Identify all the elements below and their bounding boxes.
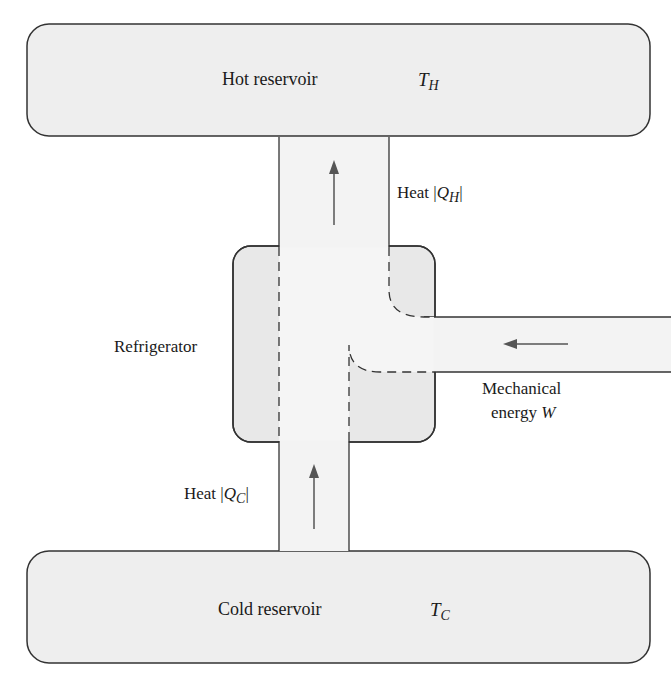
cold-reservoir-label: Cold reservoir [218, 600, 321, 618]
mechanical-energy-label-line1: Mechanical [482, 380, 561, 397]
mechanical-energy-label-line2: energy W [491, 404, 555, 421]
hot-reservoir-box [27, 24, 650, 136]
cold-reservoir-box [27, 551, 650, 663]
heat-in-label: Heat |QC| [184, 485, 249, 506]
refrigerator-label: Refrigerator [114, 338, 197, 355]
hot-reservoir-label: Hot reservoir [222, 70, 317, 88]
refrigerator-diagram [0, 0, 671, 678]
cold-temperature-label: TC [430, 600, 450, 623]
heat-out-label: Heat |QH| [397, 184, 463, 205]
hot-temperature-label: TH [418, 70, 439, 93]
